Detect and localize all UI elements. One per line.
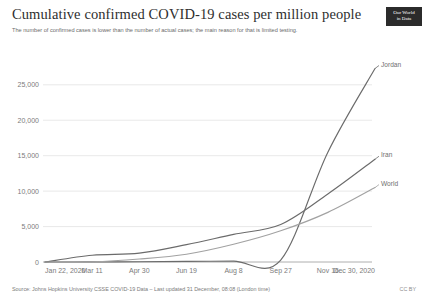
series-label-world[interactable]: World [381, 180, 398, 187]
x-tick-label: Jun 19 [176, 267, 197, 274]
series-end-labels: JordanIranWorld [381, 61, 401, 187]
line-chart[interactable]: 05,00010,00015,00020,00025,000 Jan 22, 2… [0, 0, 428, 299]
chart-plot-area: 05,00010,00015,00020,00025,000 Jan 22, 2… [0, 0, 428, 299]
x-tick-label: Sep 27 [270, 267, 292, 275]
series-line-jordan[interactable] [45, 69, 375, 269]
x-tick-label: Aug 8 [224, 267, 242, 275]
y-tick-label: 25,000 [18, 81, 40, 88]
x-tick-label: Dec 30, 2020 [333, 267, 375, 274]
series-label-connector-world [375, 185, 379, 188]
y-tick-label: 5,000 [21, 223, 39, 230]
x-tick-label: Jan 22, 2020 [45, 267, 86, 274]
series-line-iran[interactable] [45, 159, 375, 262]
series-line-world[interactable] [45, 188, 375, 263]
chart-footer: Source: Johns Hopkins University CSSE CO… [12, 286, 416, 292]
y-tick-label: 15,000 [18, 152, 40, 159]
series-lines [45, 66, 379, 269]
x-tick-label: Mar 11 [82, 267, 103, 274]
series-label-connector-iran [375, 156, 379, 159]
x-axis-tick-labels: Jan 22, 2020Mar 11Apr 30Jun 19Aug 8Sep 2… [45, 267, 375, 275]
gridlines [43, 85, 372, 262]
series-label-connector-jordan [375, 66, 379, 69]
license-note[interactable]: CC BY [400, 286, 416, 292]
series-label-iran[interactable]: Iran [381, 151, 393, 158]
y-axis-tick-labels: 05,00010,00015,00020,00025,000 [18, 81, 40, 265]
y-tick-label: 0 [35, 259, 39, 266]
x-tick-label: Apr 30 [129, 267, 150, 275]
source-note: Source: Johns Hopkins University CSSE CO… [12, 286, 270, 292]
y-tick-label: 20,000 [18, 117, 40, 124]
y-tick-label: 10,000 [18, 188, 40, 195]
series-label-jordan[interactable]: Jordan [381, 61, 401, 68]
